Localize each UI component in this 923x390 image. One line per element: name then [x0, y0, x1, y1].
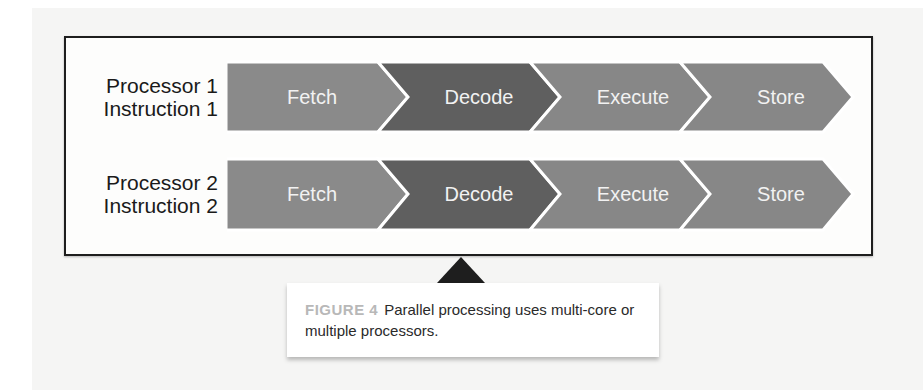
stage-label-execute: Execute: [558, 85, 708, 109]
figure-number-label: FIGURE 4: [305, 301, 378, 318]
stage-label-execute: Execute: [558, 182, 708, 206]
stage-label-fetch: Fetch: [237, 85, 387, 109]
caption-text-block: FIGURE 4Parallel processing uses multi-c…: [305, 299, 645, 341]
stage-label-store: Store: [706, 85, 856, 109]
stage-label-decode: Decode: [404, 85, 554, 109]
stage-label-decode: Decode: [404, 182, 554, 206]
stage-label-fetch: Fetch: [237, 182, 387, 206]
caption-pointer-triangle-icon: [437, 257, 485, 283]
stage-label-store: Store: [706, 182, 856, 206]
figure-caption: FIGURE 4Parallel processing uses multi-c…: [287, 283, 659, 357]
